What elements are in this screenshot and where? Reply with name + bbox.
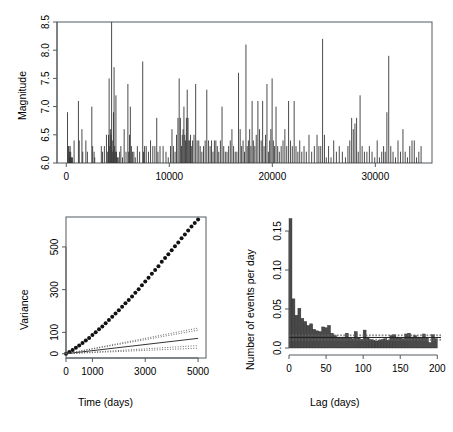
y-tick-label: 500: [49, 238, 60, 255]
histogram-bar: [301, 318, 304, 348]
magnitude-plot-area: 6.06.57.07.58.08.50100002000030000: [0, 0, 453, 200]
y-tick-label: 6.5: [40, 127, 51, 141]
x-tick-label: 3000: [134, 366, 157, 377]
histogram-bar: [428, 343, 431, 348]
histogram-bar: [378, 340, 381, 348]
x-tick-label: 1000: [81, 366, 104, 377]
x-tick-label: 10000: [155, 171, 183, 182]
x-tick-label: 0: [63, 366, 69, 377]
y-tick-label: 7.5: [40, 71, 51, 85]
y-tick-label: 0.10: [272, 260, 283, 280]
histogram-bar: [381, 339, 384, 348]
histogram-bar: [313, 329, 316, 348]
y-tick-label: 8.5: [40, 15, 51, 29]
y-tick-label: 6.0: [40, 156, 51, 170]
x-tick-label: 100: [355, 363, 372, 374]
magnitude-spikes: [68, 22, 422, 163]
variance-time-panel: Variance Time (days) 0100300500010003000…: [0, 200, 226, 432]
histogram-x-axis-title: Lag (days): [310, 396, 360, 408]
x-tick-label: 20000: [258, 171, 286, 182]
histogram-bar: [328, 325, 331, 348]
histogram-bars: [289, 219, 437, 348]
histogram-bar: [393, 335, 396, 348]
histogram-bar: [369, 339, 372, 348]
magnitude-time-series-panel: Magnitude 6.06.57.07.58.08.5010000200003…: [0, 0, 453, 200]
histogram-bar: [372, 340, 375, 348]
histogram-bar: [411, 337, 414, 348]
x-tick-label: 5000: [187, 366, 210, 377]
magnitude-y-axis-title: Magnitude: [16, 71, 28, 120]
y-tick-label: 0.0: [272, 341, 283, 355]
y-tick-label: 100: [49, 324, 60, 341]
y-tick-label: 300: [49, 281, 60, 298]
histogram-bar: [431, 335, 434, 348]
lag-histogram-panel: Number of events per day Lag (days) 0.00…: [226, 200, 453, 432]
histogram-bar: [417, 337, 420, 348]
histogram-bar: [298, 308, 301, 348]
histogram-bar: [336, 337, 339, 348]
variance-y-axis-title: Variance: [18, 289, 30, 330]
y-tick-label: 0.15: [272, 221, 283, 241]
histogram-bar: [342, 337, 345, 348]
histogram-bar: [387, 340, 390, 348]
x-tick-label: 0: [286, 363, 292, 374]
histogram-bar: [366, 337, 369, 348]
y-tick-label: 0.05: [272, 299, 283, 319]
x-tick-label: 150: [392, 363, 409, 374]
x-tick-label: 30000: [361, 171, 389, 182]
variance-points: [64, 218, 200, 356]
histogram-y-axis-title: Number of events per day: [244, 249, 256, 370]
histogram-bar: [292, 299, 295, 348]
y-tick-label: 8.0: [40, 43, 51, 57]
variance-x-axis-title: Time (days): [78, 396, 133, 408]
histogram-bar: [375, 341, 378, 348]
histogram-bar: [307, 325, 310, 348]
y-tick-label: 0: [49, 351, 60, 357]
x-tick-label: 50: [321, 363, 333, 374]
histogram-bar: [295, 315, 298, 348]
variance-frame: [66, 217, 206, 358]
x-tick-label: 0: [63, 171, 69, 182]
y-tick-label: 7.0: [40, 99, 51, 113]
x-tick-label: 200: [429, 363, 446, 374]
confidence-line: [66, 346, 198, 354]
histogram-bar: [360, 339, 363, 348]
histogram-bar: [396, 337, 399, 348]
